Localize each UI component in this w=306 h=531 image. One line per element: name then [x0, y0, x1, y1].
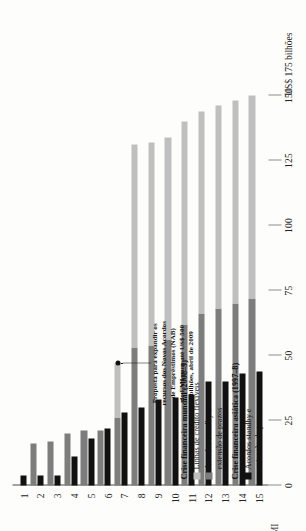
bar-group-2008: [97, 430, 103, 485]
category-tick-label: 6: [103, 493, 113, 519]
category-axis-title: Meses após o início dos novos empréstimo…: [269, 523, 279, 531]
legend-label-line: Linhas de crédito flexíveis: [191, 382, 202, 469]
legend-entry[interactable]: Acordos standby eextensão de prazos: [243, 360, 264, 479]
legend-group-spacer: [225, 360, 230, 479]
category-tick-label: 4: [69, 493, 79, 519]
annotation-marker-dot: [115, 360, 120, 365]
bar-segment-flexible-credit: [181, 121, 187, 324]
legend-group-title: Crise financeira mundial (2008–9): [179, 360, 190, 479]
bar-group-2008: [131, 144, 137, 485]
bar-standby-1997: [54, 475, 60, 485]
category-tick-label: 3: [52, 493, 62, 519]
bar-standby-1997: [121, 412, 127, 485]
legend-swatch: [205, 472, 212, 479]
value-tick: [268, 159, 281, 160]
legend-group-title: Crise financeira asiática (1997–8): [230, 360, 241, 479]
legend-label-line: extensão de prazos: [253, 407, 264, 469]
value-tick: [268, 419, 281, 420]
legend-label: Linhas de crédito flexíveis: [191, 382, 202, 469]
bar-standby-1997: [20, 475, 26, 485]
value-tick: [268, 289, 281, 290]
value-tick-label: 100: [283, 211, 293, 239]
legend-swatch: [193, 472, 200, 479]
bar-segment-flexible-credit: [114, 363, 120, 418]
value-tick-label: 125: [283, 146, 293, 174]
legend-label-line: Acordos standby e: [203, 407, 214, 469]
bar-group-2008: [30, 443, 36, 485]
bar-segment-standby-2008: [30, 443, 36, 485]
bar-segment-standby-2008: [80, 430, 86, 485]
bar-segment-flexible-credit: [131, 144, 137, 347]
legend-swatch: [244, 472, 251, 479]
legend: Crise financeira mundial (2008–9)Linhas …: [179, 360, 265, 479]
annotation-leader-line: [120, 362, 150, 363]
legend-entry[interactable]: Linhas de crédito flexíveis: [191, 360, 202, 479]
value-tick: [268, 94, 281, 95]
category-tick-label: 10: [170, 493, 180, 519]
bar-standby-1997: [138, 407, 144, 485]
bar-segment-flexible-credit: [198, 111, 204, 314]
category-tick-label: 13: [220, 493, 230, 519]
value-axis-unit-label: US$ 175 bilhões: [283, 32, 293, 95]
bar-segment-flexible-credit: [248, 95, 254, 298]
legend-label: Acordos standby eextensão de prazos: [243, 407, 264, 469]
category-tick-label: 5: [86, 493, 96, 519]
bar-segment-standby-2008: [114, 417, 120, 485]
value-tick: [268, 224, 281, 225]
bar-segment-standby-2008: [97, 430, 103, 485]
category-tick-label: 9: [153, 493, 163, 519]
annotation-line: Proposta para expandir os: [150, 311, 159, 415]
legend-entry[interactable]: Acordos standby eextensão de prazos: [203, 360, 224, 479]
bar-standby-1997: [88, 438, 94, 485]
bar-group-2008: [47, 441, 53, 485]
category-tick-label: 7: [119, 493, 129, 519]
bar-group-2008: [114, 363, 120, 485]
chart-figure: 0255075100125150US$ 175 bilhões123456789…: [0, 0, 306, 531]
annotation-line: recursos dos Novos Acordos: [159, 311, 168, 415]
bar-segment-flexible-credit: [232, 100, 238, 303]
bar-group-2008: [80, 430, 86, 485]
bar-standby-1997: [37, 475, 43, 485]
category-tick-label: 1: [19, 493, 29, 519]
category-tick-label: 11: [187, 493, 197, 519]
legend-label-line: extensão de prazos: [214, 407, 225, 469]
legend-label-line: Acordos standby e: [243, 407, 254, 469]
bar-segment-standby-2008: [131, 347, 137, 485]
bar-standby-1997: [104, 428, 110, 485]
value-tick-label: 75: [283, 276, 293, 304]
category-tick-label: 2: [35, 493, 45, 519]
category-tick-label: 12: [203, 493, 213, 519]
bar-segment-flexible-credit: [215, 105, 221, 308]
annotation-line: de Empréstimos (NAB): [168, 311, 177, 415]
bar-group-2008: [64, 433, 70, 485]
bar-segment-flexible-credit: [164, 137, 170, 340]
category-tick-label: 14: [237, 493, 247, 519]
plot-area: 0255075100125150US$ 175 bilhões123456789…: [0, 0, 306, 531]
value-tick-label: 25: [283, 406, 293, 434]
value-tick: [268, 354, 281, 355]
value-tick-label: 50: [283, 341, 293, 369]
legend-label: Acordos standby eextensão de prazos: [203, 407, 224, 469]
bar-segment-standby-2008: [64, 433, 70, 485]
category-tick-label: 15: [254, 493, 264, 519]
chart-rotated-canvas: 0255075100125150US$ 175 bilhões123456789…: [0, 0, 306, 531]
bar-segment-standby-2008: [47, 441, 53, 485]
value-tick: [268, 484, 281, 485]
bar-standby-1997: [71, 456, 77, 485]
value-tick-label: 0: [283, 471, 293, 499]
category-tick-label: 8: [136, 493, 146, 519]
